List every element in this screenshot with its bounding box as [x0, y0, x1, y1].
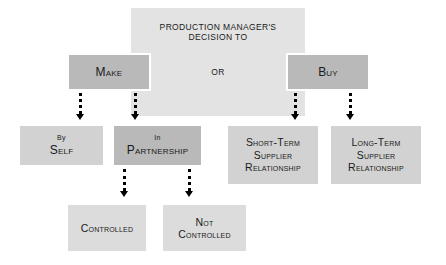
header-title-line-2: DECISION TO — [160, 32, 277, 42]
node-in-partnership-line-1: In — [127, 134, 189, 142]
node-make-label: Make — [96, 65, 123, 79]
header-title: PRODUCTION MANAGER'S DECISION TO — [160, 22, 277, 42]
node-in-partnership-text: In Partnership — [127, 134, 189, 156]
node-make[interactable]: Make — [67, 53, 151, 91]
node-production-manager-decision[interactable]: PRODUCTION MANAGER'S DECISION TO — [131, 8, 305, 116]
node-not-controlled-line-1: Not — [178, 216, 230, 228]
arrow-make-to-in-partnership — [131, 93, 140, 123]
node-by-self-line-1: By — [50, 134, 73, 142]
header-title-line-1: PRODUCTION MANAGER'S — [160, 22, 277, 32]
arrow-in-partnership-to-controlled — [120, 169, 129, 199]
node-buy-label: Buy — [318, 65, 338, 79]
node-not-controlled[interactable]: Not Controlled — [163, 205, 246, 251]
decision-flow-diagram: PRODUCTION MANAGER'S DECISION TO OR Make… — [0, 0, 446, 265]
node-long-term-line-1: Long-Term — [348, 136, 404, 148]
node-long-term-line-2: Supplier — [348, 149, 404, 161]
node-short-term-line-3: Relationship — [245, 161, 301, 173]
or-label: OR — [188, 67, 248, 77]
node-controlled-label: Controlled — [81, 222, 133, 234]
node-not-controlled-text: Not Controlled — [178, 216, 230, 241]
node-long-term-supplier-relationship[interactable]: Long-Term Supplier Relationship — [329, 124, 423, 186]
node-short-term-line-1: Short-Term — [245, 136, 301, 148]
node-by-self-text: By Self — [50, 134, 73, 156]
arrow-buy-to-long-term — [346, 93, 355, 123]
node-by-self-line-2: Self — [50, 143, 73, 157]
node-long-term-line-3: Relationship — [348, 161, 404, 173]
node-in-partnership[interactable]: In Partnership — [112, 124, 203, 167]
node-controlled[interactable]: Controlled — [68, 205, 146, 251]
arrow-make-to-by-self — [76, 93, 85, 123]
node-long-term-text: Long-Term Supplier Relationship — [348, 136, 404, 173]
arrow-in-partnership-to-not-controlled — [185, 169, 194, 199]
node-by-self[interactable]: By Self — [18, 124, 105, 167]
node-in-partnership-line-2: Partnership — [127, 143, 189, 157]
node-short-term-supplier-relationship[interactable]: Short-Term Supplier Relationship — [226, 124, 320, 186]
node-short-term-line-2: Supplier — [245, 149, 301, 161]
node-not-controlled-line-2: Controlled — [178, 228, 230, 240]
node-buy[interactable]: Buy — [286, 53, 370, 91]
arrow-buy-to-short-term — [291, 93, 300, 123]
node-short-term-text: Short-Term Supplier Relationship — [245, 136, 301, 173]
